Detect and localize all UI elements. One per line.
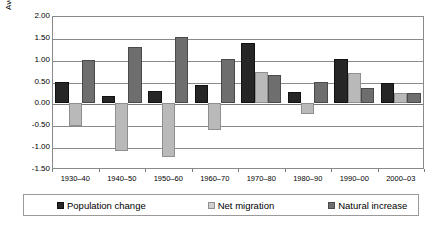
bar: [288, 92, 301, 103]
bars-layer: [52, 16, 424, 169]
legend-item[interactable]: Population change: [57, 200, 146, 211]
legend-label: Net migration: [218, 200, 275, 211]
chart-figure: Average annual percent change 2.001.501.…: [0, 0, 442, 230]
bar: [255, 72, 268, 104]
legend-swatch-icon: [328, 202, 335, 209]
bar: [102, 96, 115, 103]
y-axis-tick-label: -1.00: [4, 143, 50, 151]
chart-legend: Population changeNet migrationNatural in…: [23, 194, 419, 216]
bar: [195, 85, 208, 103]
bar: [301, 103, 314, 114]
x-axis-tick-labels: 1930–401940–501950–601960–701970–801980–…: [52, 169, 424, 185]
x-axis-tick-mark: [52, 169, 53, 172]
y-axis-tick-label: 2.00: [4, 12, 50, 20]
bar: [162, 103, 175, 157]
y-axis-tick-labels: 2.001.501.000.500.00-0.50-1.00-1.50: [0, 16, 50, 169]
x-axis-tick-label: 1980–90: [285, 174, 332, 184]
bar: [115, 103, 128, 150]
bar: [348, 73, 361, 104]
legend-swatch-icon: [208, 202, 215, 209]
x-axis-tick-label: 1970–80: [238, 174, 285, 184]
legend-item[interactable]: Net migration: [208, 200, 275, 211]
legend-label: Natural increase: [338, 200, 407, 211]
y-axis-tick-label: 0.00: [4, 99, 50, 107]
y-axis-tick-label: 0.50: [4, 78, 50, 86]
bar: [175, 37, 188, 103]
x-axis-tick-mark: [145, 169, 146, 172]
bar: [241, 43, 254, 103]
y-axis-tick-label: 1.00: [4, 56, 50, 64]
bar: [314, 82, 327, 104]
y-axis-tick-label: 1.50: [4, 34, 50, 42]
bar: [361, 88, 374, 103]
x-axis-tick-mark: [99, 169, 100, 172]
x-axis-tick-label: 1930–40: [52, 174, 99, 184]
x-axis-tick-mark: [378, 169, 379, 172]
y-axis-tick-label: -1.50: [4, 165, 50, 173]
bar: [69, 103, 82, 126]
x-axis-tick-mark: [192, 169, 193, 172]
bar: [208, 103, 221, 129]
bar: [221, 59, 234, 103]
legend-swatch-icon: [57, 202, 64, 209]
legend-label: Population change: [67, 200, 146, 211]
legend-item[interactable]: Natural increase: [328, 200, 407, 211]
x-axis-tick-label: 1950–60: [145, 174, 192, 184]
bar: [268, 75, 281, 103]
bar: [394, 93, 407, 103]
x-axis-tick-label: 1990–00: [331, 174, 378, 184]
bar: [334, 59, 347, 104]
x-axis-tick-label: 1940–50: [99, 174, 146, 184]
x-axis-tick-mark: [285, 169, 286, 172]
x-axis-tick-mark: [424, 169, 425, 172]
bar: [407, 93, 420, 103]
x-axis-tick-mark: [238, 169, 239, 172]
bar: [381, 83, 394, 104]
x-axis-tick-label: 2000–03: [378, 174, 425, 184]
bar: [55, 82, 68, 103]
bar: [82, 60, 95, 104]
bar: [148, 91, 161, 104]
y-axis-tick-label: -0.50: [4, 121, 50, 129]
x-axis-tick-label: 1960–70: [192, 174, 239, 184]
bar: [128, 47, 141, 103]
x-axis-tick-mark: [331, 169, 332, 172]
